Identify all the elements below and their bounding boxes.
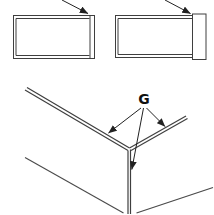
leader-arrow-left-icon [109,108,142,133]
callout-label-g: G [138,91,150,107]
panel-outline [116,16,193,58]
pointer-arrow-icon [165,0,191,14]
left-ridge-inner-line [25,90,128,151]
right-ridge-inner-line [131,119,188,151]
panel-detail-left [14,0,95,59]
corner-view: G [25,88,213,215]
leader-arrow-down-icon [132,108,144,170]
technical-diagram: G [0,0,214,214]
panel-outline [14,16,95,59]
technical-diagram-page: G [0,0,214,214]
pointer-arrow-icon [62,0,88,14]
panel-detail-right [116,0,207,60]
left-base-line [25,158,124,214]
leader-arrow-right-icon [147,108,166,127]
callout-g: G [109,91,166,170]
right-ridge-outer-line [130,116,187,148]
edge-strip-wide [193,14,207,60]
right-base-line [137,188,214,214]
left-ridge-outer-line [27,88,130,149]
